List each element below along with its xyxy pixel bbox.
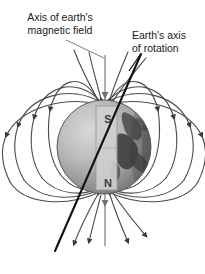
magnetic-axis-label: Axis of earth's magnetic field (14, 11, 106, 36)
rotation-axis-label: Earth's axis of rotation (132, 29, 202, 54)
magnet-south-pole-label: S (99, 113, 117, 125)
field-line-polar-top-left-near (89, 52, 101, 99)
field-line-polar-bottom-left-near (89, 195, 101, 242)
magnet-north-pole-label: N (99, 177, 117, 189)
earth-magnetic-field-figure: Axis of earth's magnetic field Earth's a… (0, 0, 205, 274)
magnetic-label-leader-line (66, 40, 104, 58)
